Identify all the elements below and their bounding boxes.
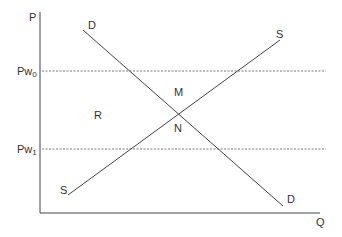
pw1-label: Pw1 xyxy=(17,143,37,157)
pw0-label: Pw0 xyxy=(17,65,37,79)
demand-curve xyxy=(83,30,283,206)
region-r-label: R xyxy=(94,109,102,121)
demand-label-bottom: D xyxy=(287,193,295,205)
y-axis-label: P xyxy=(29,11,36,23)
x-axis-label: Q xyxy=(316,216,325,228)
supply-demand-diagram: P Q Pw0 Pw1 D D S S R M N xyxy=(0,0,342,237)
region-n-label: N xyxy=(174,122,182,134)
supply-label-top: S xyxy=(276,28,283,40)
supply-label-bottom: S xyxy=(60,184,67,196)
region-m-label: M xyxy=(174,86,183,98)
demand-label-top: D xyxy=(88,19,96,31)
